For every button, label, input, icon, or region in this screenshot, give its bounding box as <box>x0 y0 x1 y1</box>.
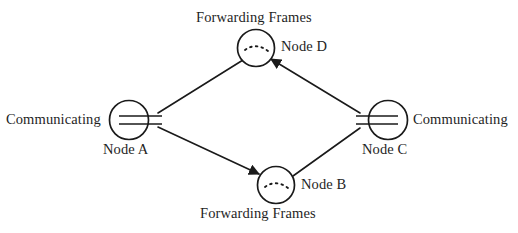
label-node-a: Node A <box>103 142 148 157</box>
network-diagram: Communicating Communicating Forwarding F… <box>0 0 518 233</box>
label-forwarding-frames-bottom: Forwarding Frames <box>200 206 316 221</box>
label-communicating-left: Communicating <box>6 112 101 127</box>
node-a-circle[interactable] <box>110 101 149 140</box>
node-c-circle[interactable] <box>369 101 408 140</box>
link-a-to-d <box>158 60 243 113</box>
link-b-to-c <box>293 128 360 176</box>
label-communicating-right: Communicating <box>413 112 508 127</box>
node-d-circle[interactable] <box>238 30 275 67</box>
label-node-b: Node B <box>301 177 346 192</box>
label-node-d: Node D <box>281 39 327 54</box>
node-b-circle[interactable] <box>258 167 295 204</box>
label-forwarding-frames-top: Forwarding Frames <box>196 10 312 25</box>
link-a-to-b <box>158 127 259 174</box>
label-node-c: Node C <box>362 142 407 157</box>
link-c-to-d <box>271 59 360 113</box>
